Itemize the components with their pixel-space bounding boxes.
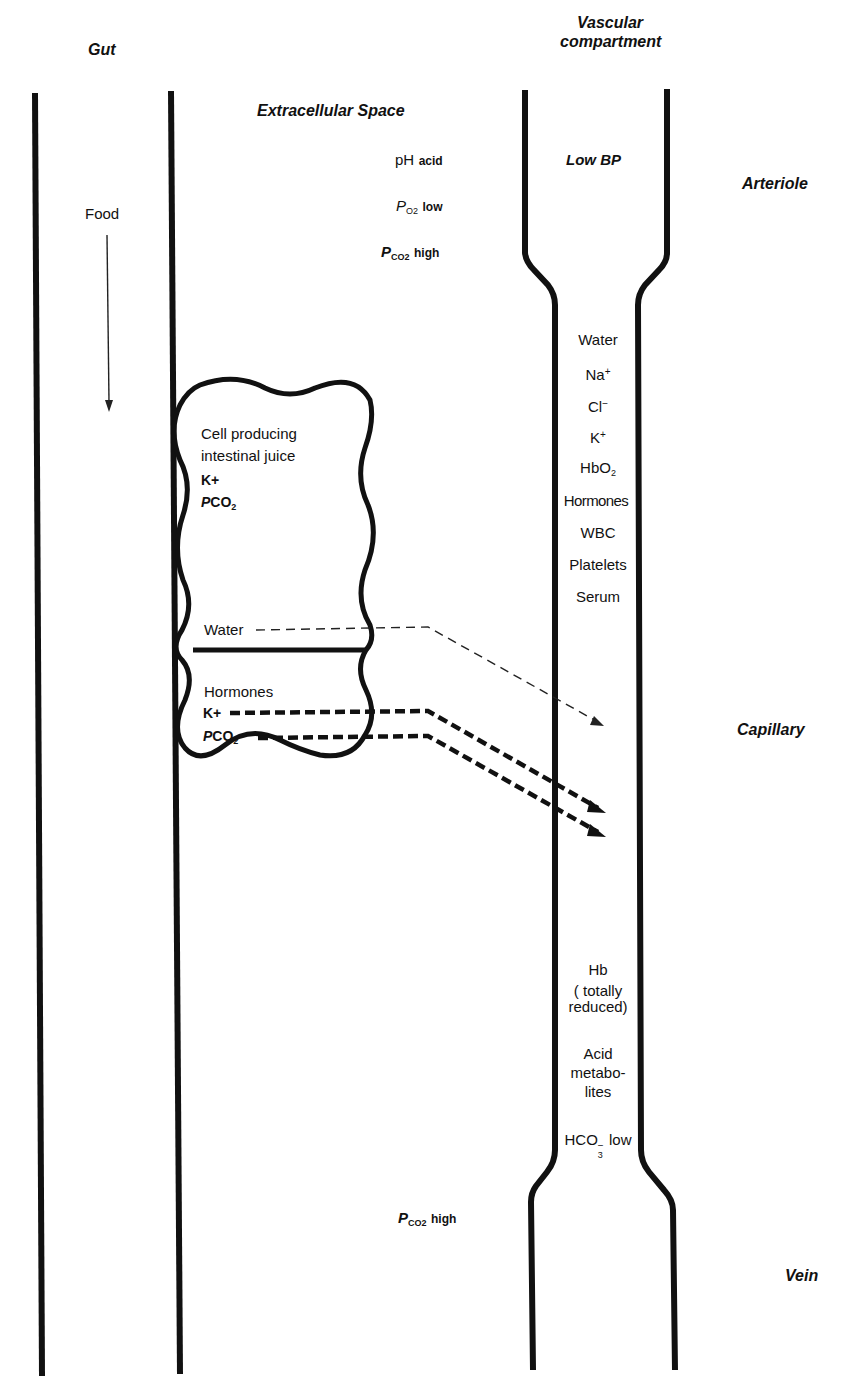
acid-line1: Acid: [556, 1044, 640, 1063]
cell-water-label: Water: [204, 621, 243, 638]
pco2-sub: CO2: [391, 252, 410, 262]
k-diffusion-arrow-icon: [230, 711, 606, 813]
vessel-left-wall: [525, 90, 555, 1370]
cell-k-label: K+: [201, 472, 219, 488]
na-text: Na: [585, 366, 604, 383]
pco2-high-label-top: PCO2 high: [381, 243, 439, 262]
cl-charge: −: [602, 398, 608, 409]
cell-hormones-label: Hormones: [204, 683, 273, 700]
venous-hb-note: ( totally reduced): [556, 983, 640, 1015]
ph-acid-label: pH acid: [395, 151, 443, 169]
pco2-qualifier: high: [414, 246, 439, 260]
cell-pco2-lower-label: PCO2: [203, 728, 238, 746]
capillary-item-k: K+: [556, 426, 640, 446]
hbo2-sub: 2: [611, 468, 616, 478]
cell-pco2-lower-sub: 2: [233, 736, 238, 746]
vein-label: Vein: [785, 1267, 818, 1285]
po2-p: P: [396, 197, 406, 214]
ph-qualifier: acid: [419, 154, 443, 168]
k-text: K: [590, 429, 600, 446]
hco3-text: HCO: [564, 1131, 597, 1148]
gut-header: Gut: [88, 41, 116, 59]
acid-line2: metabo-: [556, 1063, 640, 1082]
cell-pco2-sub: 2: [231, 502, 236, 512]
pco2-bottom-sub: CO2: [408, 1218, 427, 1228]
pco2-bottom-p: P: [398, 1209, 408, 1226]
food-arrow-icon: [105, 235, 113, 412]
cell-pco2-lower-p: P: [203, 728, 212, 744]
food-label: Food: [85, 205, 119, 222]
k-charge: +: [600, 429, 606, 440]
po2-qualifier: low: [422, 200, 442, 214]
vascular-header-line2: compartment: [560, 32, 660, 51]
po2-low-label: PO2 low: [396, 197, 442, 216]
low-bp-label: Low BP: [566, 151, 621, 168]
cell-pco2-main: CO: [210, 494, 231, 510]
po2-sub: O2: [406, 206, 418, 216]
ph-text: pH: [395, 151, 414, 168]
cl-text: Cl: [588, 398, 602, 415]
capillary-item-platelets: Platelets: [556, 556, 640, 573]
cell-pco2-lower-main: CO: [212, 728, 233, 744]
capillary-item-hormones: Hormones: [554, 492, 638, 509]
cell-title-line1: Cell producing: [201, 423, 297, 445]
vascular-compartment-header: Vascular compartment: [560, 13, 660, 51]
capillary-item-na: Na+: [556, 363, 640, 383]
acid-line3: lites: [556, 1082, 640, 1101]
cell-title-line2: intestinal juice: [201, 445, 297, 467]
hb-note-line2: reduced): [556, 999, 640, 1015]
cell-title: Cell producing intestinal juice: [201, 423, 297, 467]
venous-hco3-low: HCO−3 low: [556, 1131, 640, 1148]
venous-acid-metabolites: Acid metabo- lites: [556, 1044, 640, 1101]
cell-pco2-label: PCO2: [201, 494, 236, 512]
vessel-right-wall: [638, 89, 675, 1370]
cell-k-lower-label: K+: [203, 705, 221, 721]
na-charge: +: [605, 366, 611, 377]
pco2-bottom-qualifier: high: [431, 1212, 456, 1226]
hbo2-text: HbO: [580, 459, 611, 476]
capillary-item-cl: Cl−: [556, 395, 640, 415]
cell-pco2-p: P: [201, 494, 210, 510]
hco3-qualifier: low: [609, 1131, 632, 1148]
gut-outer-wall: [35, 93, 42, 1376]
extracellular-space-header: Extracellular Space: [257, 102, 405, 120]
capillary-item-serum: Serum: [556, 588, 640, 605]
capillary-item-water: Water: [556, 331, 640, 348]
capillary-item-wbc: WBC: [556, 524, 640, 541]
venous-hb: Hb: [556, 961, 640, 978]
hb-note-line1: ( totally: [556, 983, 640, 999]
pco2-high-label-bottom: PCO2 high: [398, 1209, 456, 1228]
pco2-p: P: [381, 243, 391, 260]
arteriole-label: Arteriole: [742, 175, 808, 193]
capillary-item-hbo2: HbO2: [556, 459, 640, 482]
vascular-header-line1: Vascular: [560, 13, 660, 32]
capillary-label: Capillary: [737, 721, 805, 739]
hco3-sub: 3: [598, 1147, 603, 1164]
